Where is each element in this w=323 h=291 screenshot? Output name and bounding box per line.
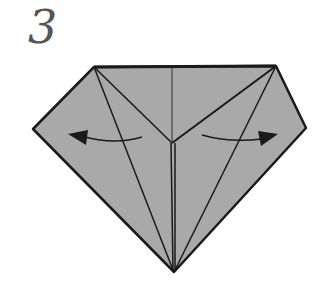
paper-shape	[33, 66, 306, 272]
top-edge	[94, 66, 276, 67]
origami-diagram	[0, 0, 323, 291]
